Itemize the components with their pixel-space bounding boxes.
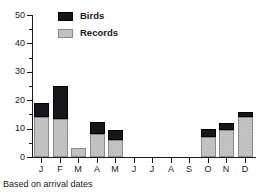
bar-column [238,112,253,157]
x-axis-tick [189,158,190,163]
x-axis-tick [41,158,42,163]
bar-column [219,123,234,157]
y-axis-label: 30 [1,67,25,76]
x-axis-tick [226,158,227,163]
x-axis-label: D [236,164,254,174]
y-axis-tick [27,157,32,158]
legend-swatch-birds-icon [58,12,73,21]
bar-segment-birds [238,112,253,118]
bar-segment-birds [53,86,68,119]
x-axis-label: J [125,164,143,174]
legend: Birds Records [58,10,118,44]
x-axis-tick [115,158,116,163]
x-axis-tick [78,158,79,163]
x-axis-line [32,157,256,158]
bar-segment-records [53,119,68,157]
bar-segment-birds [108,130,123,140]
y-axis-label: 40 [1,39,25,48]
bar-column [90,122,105,157]
x-axis-label: N [217,164,235,174]
legend-swatch-records-icon [58,29,73,38]
y-axis-label: 10 [1,124,25,133]
x-axis-tick [208,158,209,163]
bar-column [34,103,49,157]
bar-segment-records [108,140,123,157]
bar-column [108,130,123,157]
bar-segment-birds [219,123,234,130]
x-axis-tick [60,158,61,163]
legend-label-birds: Birds [80,11,104,21]
x-axis-tick [134,158,135,163]
bar-segment-records [90,134,105,157]
x-axis-label: S [180,164,198,174]
bar-segment-records [201,137,216,157]
x-axis-label: J [143,164,161,174]
y-axis-label: 0 [1,153,25,162]
bar-segment-records [34,117,49,157]
bar-segment-birds [201,129,216,138]
bar-segment-records [219,130,234,157]
x-axis-label: F [51,164,69,174]
bar-segment-birds [34,103,49,117]
x-axis-label: M [69,164,87,174]
x-axis-tick [97,158,98,163]
bar-column [53,86,68,157]
bar-chart: 01020304050 JFMAMJJASOND Birds Records B… [0,0,265,194]
x-axis-label: A [162,164,180,174]
legend-label-records: Records [80,28,118,38]
x-axis-label: J [32,164,50,174]
legend-item-birds: Birds [58,10,118,22]
bar-column [201,129,216,157]
x-axis-tick [152,158,153,163]
y-axis-label: 50 [1,11,25,20]
x-axis-label: A [88,164,106,174]
bar-segment-records [71,148,86,157]
x-axis-label: M [106,164,124,174]
chart-caption: Based on arrival dates [3,179,93,190]
y-axis-label: 20 [1,96,25,105]
bar-column [71,148,86,157]
legend-item-records: Records [58,27,118,39]
bar-segment-birds [90,122,105,134]
x-axis-tick [245,158,246,163]
bar-segment-records [238,117,253,157]
x-axis-label: O [199,164,217,174]
x-axis-tick [171,158,172,163]
